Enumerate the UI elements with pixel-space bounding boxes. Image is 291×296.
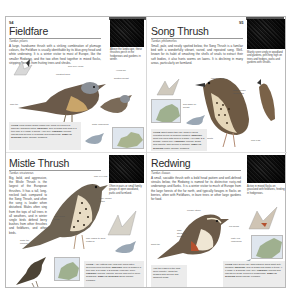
species-title: Fieldfare [9,25,48,37]
similar-label: SIMILAR SPECIES [98,275,119,278]
annotation: spotted breast [114,77,142,80]
similar-text: Song Thrush; Fieldfare [236,275,260,278]
species-title: Mistle Thrush [9,157,69,169]
page-number-right: 95 [239,20,243,25]
range-map [151,99,181,123]
species-infobox: VOICE Loud chack-chack-chack call; song … [9,122,81,150]
annotation: creamy stripe [187,209,201,212]
annotation: short tail [151,243,163,246]
europe-map-icon [55,258,81,282]
size-silhouette-icon [185,113,207,127]
mistle-thrush-flight-illustration [106,209,142,239]
fieldfare-small-illustration [98,89,138,117]
species-title: Redwing [151,157,190,169]
species-infobox: VOICE A dry rattling call; loud fluty so… [84,261,144,287]
habitat-photo [109,155,144,183]
song-thrush-flight-illustration [155,75,183,99]
annotation: pink legs [251,139,273,142]
annotation: yellow bill [116,69,142,72]
song-thrush-singing-illustration [253,77,281,129]
annotation: pale eye-ring [94,175,108,178]
annotation: blue-grey head [68,65,90,68]
photo-caption: Often in pairs or small family groups in… [109,185,144,195]
annotation: pale eye-ring [211,77,225,80]
intro-text: Small, pale, and neatly spotted below, t… [151,44,243,65]
intro-text: A small, sociable thrush with a bold hea… [151,176,241,201]
latin-name: Turdus iliacus [151,171,170,175]
latin-name: Turdus philomelos [151,39,177,43]
photo-caption: Mainly seen singly in woodland and garde… [247,51,285,64]
annotation: white tail corners [20,239,36,245]
europe-map-icon [252,236,284,260]
annotation: grey-brown back [100,197,114,203]
photo-caption: Active in mixed flocks on grassland with… [247,185,285,195]
similar-text: Mistle Thrush; Redwing [22,136,47,139]
photo-caption: Above the landscape, these thrushes perc… [110,48,144,61]
side-note-box: Visit the edges of the wild, open countr… [151,265,187,287]
annotation: pale edges to wing feathers [86,237,108,243]
europe-map-icon [113,128,145,150]
annotation: dark-streaked breast [177,229,191,237]
annotation: warm brown upperparts [233,89,251,95]
habitat-photo [110,19,144,47]
europe-map-icon [152,100,182,124]
redwing-illustration [155,205,235,265]
annotation: rusty-red underwing [231,237,249,243]
redwing-flight-illustration [247,205,281,233]
range-map [251,235,283,259]
entry-mistle-thrush: Mistle Thrush Turdus viscivorus Big, bol… [6,152,146,289]
size-silhouette-icon [84,129,106,147]
field-guide-spread: 94 Fieldfare Turdus pilaris A large, han… [5,16,286,288]
annotation: dark tail [10,103,24,106]
range-map [54,257,80,281]
latin-name: Turdus pilaris [9,39,28,43]
annotation: chestnut back [56,73,72,76]
annotation: white underwing [92,123,114,126]
annotation: bold round spots [54,215,70,221]
entry-redwing: Redwing Turdus iliacus A small, sociable… [147,152,287,289]
fieldfare-flight-illustration [12,57,34,79]
size-silhouette-icon [114,239,138,255]
entry-fieldfare: 94 Fieldfare Turdus pilaris A large, han… [6,17,146,152]
habitat-photo [247,19,285,49]
species-infobox: VOICE Short sharp tsip call; song a vari… [151,129,207,151]
range-map [112,127,144,149]
entry-song-thrush: 95 Song Thrush Turdus philomelos Small, … [147,17,287,152]
species-title: Song Thrush [151,25,209,37]
similar-text: Mistle Thrush; Redwing [164,147,189,150]
mistle-thrush-juvenile-illustration [14,253,50,287]
species-infobox: VOICE Thin seeep call, high-pitched; son… [223,261,285,287]
annotation: red flanks [229,225,247,228]
annotation: buff wash on breast [183,103,201,109]
habitat-photo [247,155,285,183]
